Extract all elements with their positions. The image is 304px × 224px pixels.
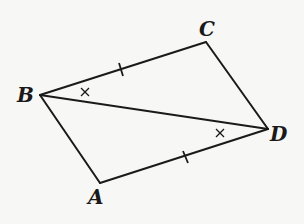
diagonal-bd — [40, 95, 268, 129]
geometry-diagram: B C D A — [0, 0, 304, 224]
segment-bc — [40, 42, 206, 95]
angle-mark-b — [81, 88, 89, 96]
label-c: C — [199, 17, 215, 41]
segment-ab — [40, 95, 100, 183]
segment-da — [100, 129, 268, 183]
label-b: B — [16, 83, 34, 107]
angle-mark-d — [216, 129, 224, 137]
label-d: D — [269, 122, 288, 146]
label-a: A — [86, 185, 104, 209]
segment-cd — [206, 42, 268, 129]
